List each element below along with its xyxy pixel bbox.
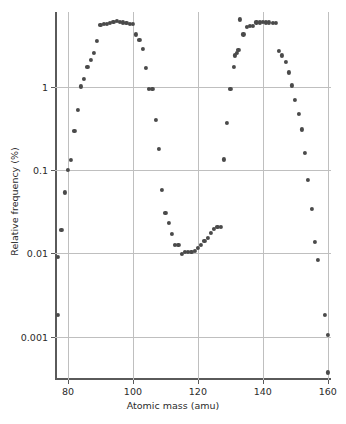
gridline-vertical [133, 12, 134, 380]
gridline-vertical [263, 12, 264, 380]
scatter-point [274, 21, 278, 25]
scatter-point [222, 157, 226, 161]
x-tick-label: 120 [189, 386, 207, 397]
scatter-point [69, 158, 73, 162]
x-tick [133, 380, 134, 384]
scatter-point [206, 235, 210, 239]
y-tick-label: 0.01 [27, 248, 48, 259]
x-tick-label: 160 [319, 386, 337, 397]
y-tick-label: 0.1 [33, 165, 48, 176]
gridline-vertical [68, 12, 69, 380]
scatter-point [144, 66, 148, 70]
scatter-point [303, 151, 307, 155]
y-tick [51, 170, 55, 171]
scatter-point [89, 58, 93, 62]
scatter-point [251, 24, 255, 28]
scatter-point [296, 111, 300, 115]
scatter-point [300, 127, 304, 131]
scatter-point [176, 243, 180, 247]
scatter-point [313, 240, 317, 244]
scatter-point [157, 147, 161, 151]
x-axis-spine [55, 378, 331, 380]
gridline-horizontal [55, 87, 331, 88]
scatter-point [219, 224, 223, 228]
scatter-point [287, 70, 291, 74]
scatter-point [326, 370, 330, 374]
scatter-point [160, 188, 164, 192]
x-tick [68, 380, 69, 384]
scatter-point [163, 210, 167, 214]
scatter-point [316, 258, 320, 262]
x-tick [198, 380, 199, 384]
scatter-point [283, 60, 287, 64]
x-tick-label: 140 [254, 386, 272, 397]
scatter-point [66, 168, 70, 172]
scatter-point [225, 121, 229, 125]
scatter-point [322, 313, 326, 317]
scatter-point [238, 17, 242, 21]
scatter-point [72, 128, 76, 132]
scatter-point [309, 207, 313, 211]
scatter-point [293, 98, 297, 102]
scatter-point [280, 53, 284, 57]
scatter-point [59, 228, 63, 232]
scatter-point [241, 32, 245, 36]
scatter-point [150, 87, 154, 91]
scatter-point [236, 48, 240, 52]
scatter-point [231, 65, 235, 69]
scatter-point [92, 50, 96, 54]
y-tick-label: 1 [42, 82, 48, 93]
scatter-point [56, 313, 60, 317]
y-axis-label: Relative frequency (%) [9, 112, 20, 292]
y-tick [51, 337, 55, 338]
figure-container: 80100120140160 10.10.010.001 Atomic mass… [0, 0, 346, 424]
gridline-horizontal [55, 253, 331, 254]
scatter-point [306, 178, 310, 182]
y-tick-label: 0.001 [21, 331, 48, 342]
scatter-point [85, 65, 89, 69]
y-axis-spine [55, 12, 57, 380]
scatter-point [209, 231, 213, 235]
x-tick-label: 100 [124, 386, 142, 397]
gridline-horizontal [55, 170, 331, 171]
scatter-point [154, 118, 158, 122]
scatter-point [170, 232, 174, 236]
scatter-point [199, 243, 203, 247]
y-tick [51, 87, 55, 88]
scatter-point [137, 38, 141, 42]
plot-area [55, 12, 331, 380]
scatter-point [82, 77, 86, 81]
scatter-point [131, 22, 135, 26]
scatter-point [228, 87, 232, 91]
y-tick [51, 253, 55, 254]
x-axis-label: Atomic mass (amu) [0, 400, 346, 411]
scatter-point [76, 108, 80, 112]
scatter-point [95, 39, 99, 43]
scatter-point [63, 190, 67, 194]
scatter-point [167, 221, 171, 225]
gridline-vertical [328, 12, 329, 380]
x-tick [263, 380, 264, 384]
scatter-point [134, 32, 138, 36]
scatter-point [56, 255, 60, 259]
gridline-horizontal [55, 337, 331, 338]
scatter-point [141, 47, 145, 51]
gridline-vertical [198, 12, 199, 380]
x-tick-label: 80 [62, 386, 74, 397]
x-tick [328, 380, 329, 384]
